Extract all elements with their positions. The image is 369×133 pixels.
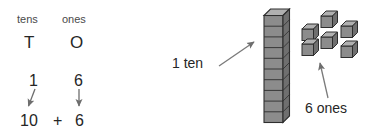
base-ten-unit-cubes (302, 11, 358, 58)
place-value-figure: tens ones T O 1 6 10 + 6 1 ten 6 ones (0, 0, 369, 133)
unit-cube (341, 21, 358, 38)
unit-cube (341, 41, 358, 58)
arrow-up-icon-units (320, 63, 328, 98)
figure-graphics (0, 0, 369, 133)
unit-cube (302, 39, 319, 56)
arrow-down-icon-tens (29, 89, 36, 106)
unit-cube (302, 24, 319, 41)
unit-cube (321, 11, 338, 28)
arrow-up-right-icon-rod (219, 42, 254, 66)
unit-cube (321, 32, 338, 49)
base-ten-rod (264, 9, 290, 123)
